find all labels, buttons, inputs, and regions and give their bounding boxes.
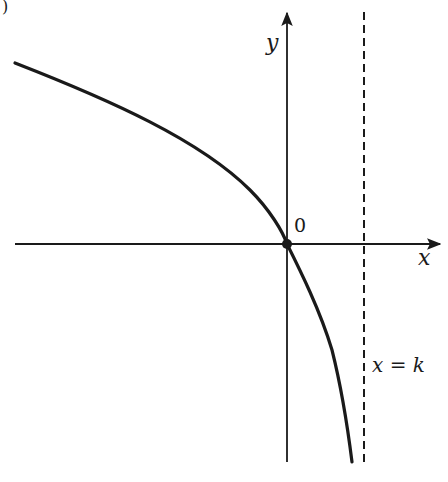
origin-label: 0	[294, 214, 306, 236]
y-axis-label: y	[265, 30, 279, 55]
asymptote-label: x = k	[372, 353, 425, 377]
x-axis-label: x	[418, 245, 431, 270]
origin-point	[282, 239, 292, 249]
corner-fragment: )	[2, 0, 8, 16]
graph-canvas: ) y 0 x x = k	[0, 0, 448, 482]
function-curve	[15, 63, 352, 462]
